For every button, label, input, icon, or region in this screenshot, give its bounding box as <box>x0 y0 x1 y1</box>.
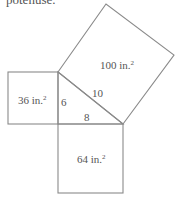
label-side-a: 6 <box>61 96 67 108</box>
label-area-bottom: 64 in.2 <box>77 153 106 165</box>
label-area-left: 36 in.2 <box>18 94 47 106</box>
label-area-hypotenuse: 100 in.2 <box>100 59 135 71</box>
pythagorean-diagram: 100 in.2 36 in.2 64 in.2 6 10 8 <box>0 0 181 201</box>
right-triangle <box>58 72 123 124</box>
label-hypotenuse: 10 <box>92 87 104 99</box>
label-side-b: 8 <box>84 111 90 123</box>
